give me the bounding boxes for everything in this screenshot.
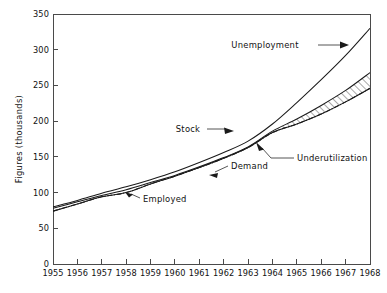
x-tick-label: 1968: [359, 268, 380, 278]
employed-arrow-icon: [125, 192, 133, 198]
label-stock: Stock: [176, 124, 200, 134]
y-axis-tick-labels: 0 50 100 150 200 250 300 350: [33, 9, 49, 269]
y-tick-label: 50: [38, 223, 49, 233]
unemployment-arrow-icon: [340, 42, 349, 49]
x-tick-label: 1960: [164, 268, 185, 278]
x-tick-label: 1967: [335, 268, 356, 278]
x-tick-label: 1957: [91, 268, 112, 278]
x-tick-label: 1965: [286, 268, 307, 278]
data-region: [53, 28, 370, 211]
underutilization-arrow-icon: [256, 142, 264, 151]
figure-svg: 0 50 100 150 200 250 300 350 Figures (th…: [0, 0, 387, 293]
y-tick-label: 250: [33, 80, 49, 90]
label-demand: Demand: [231, 161, 268, 171]
stock-arrow-icon: [224, 127, 234, 134]
annotation-leaders: [125, 42, 349, 198]
underutilization-leader-line: [262, 148, 294, 158]
y-axis-title: Figures (thousands): [14, 95, 24, 183]
plot-frame: [53, 14, 370, 264]
y-tick-label: 100: [33, 188, 49, 198]
x-tick-label: 1956: [67, 268, 88, 278]
x-tick-label: 1962: [213, 268, 234, 278]
y-tick-label: 150: [33, 152, 49, 162]
x-tick-label: 1964: [262, 268, 283, 278]
annotation-labels: Unemployment Stock Underutilization Dema…: [143, 40, 368, 204]
x-tick-label: 1955: [42, 268, 63, 278]
demand-leader-line: [215, 166, 228, 172]
series-line-stock: [53, 73, 370, 209]
demand-arrow-icon: [209, 173, 218, 178]
label-unemployment: Unemployment: [231, 40, 299, 50]
y-axis-ticks: [53, 14, 58, 264]
axis-box: [53, 14, 370, 264]
x-axis-ticks: [53, 259, 370, 264]
x-tick-label: 1959: [140, 268, 161, 278]
x-tick-label: 1963: [237, 268, 258, 278]
chart-container: 0 50 100 150 200 250 300 350 Figures (th…: [0, 0, 387, 293]
x-tick-label: 1958: [116, 268, 137, 278]
x-tick-label: 1961: [189, 268, 210, 278]
label-employed: Employed: [143, 194, 187, 204]
y-tick-label: 200: [33, 116, 49, 126]
y-tick-label: 350: [33, 9, 49, 19]
y-tick-label: 300: [33, 45, 49, 55]
series-line-unemployment: [53, 28, 370, 207]
label-underutilization: Underutilization: [297, 153, 368, 163]
x-tick-label: 1966: [311, 268, 332, 278]
x-axis-tick-labels: 1955 1956 1957 1958 1959 1960 1961 1962 …: [42, 268, 380, 278]
